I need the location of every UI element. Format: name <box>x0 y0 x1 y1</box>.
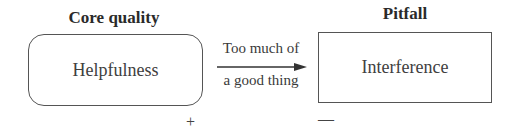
pitfall-heading: Pitfall <box>370 4 440 24</box>
core-quality-box: Helpfulness <box>28 34 203 106</box>
core-quality-label: Helpfulness <box>73 60 159 81</box>
core-quality-heading: Core quality <box>58 8 170 28</box>
positive-sign: + <box>186 113 195 131</box>
arrow-label-top: Too much of <box>210 40 312 57</box>
pitfall-label: Interference <box>362 57 449 78</box>
arrow-label-bottom: a good thing <box>210 72 312 89</box>
negative-sign: — <box>318 110 334 128</box>
pitfall-box: Interference <box>318 32 492 103</box>
